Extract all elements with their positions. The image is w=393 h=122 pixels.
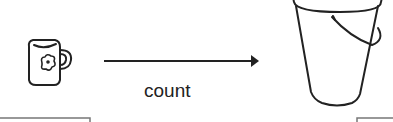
frame-edges — [0, 118, 393, 122]
mug-icon — [29, 40, 71, 85]
arrow-icon — [104, 55, 259, 67]
bucket-icon — [294, 0, 382, 106]
arrow-label: count — [144, 80, 190, 102]
diagram-canvas — [0, 0, 393, 122]
